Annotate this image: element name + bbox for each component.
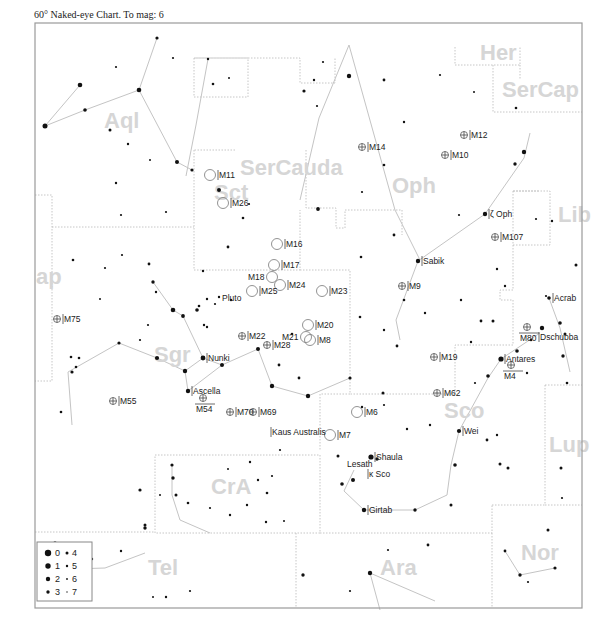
magnitude-dot-icon <box>66 578 68 580</box>
dso-m7[interactable]: M7 <box>325 430 352 441</box>
dso-m75[interactable]: M75 <box>54 314 81 324</box>
dso-m8[interactable]: M8 <box>305 335 332 346</box>
dso-label: M20 <box>317 320 334 330</box>
open-cluster-icon <box>305 335 316 346</box>
star--sco[interactable]: κ Sco <box>368 469 391 479</box>
dso-label: M107 <box>502 232 524 242</box>
star-label: Sabik <box>423 256 445 266</box>
legend-mag: 5 <box>72 561 77 571</box>
dso-label: M4 <box>504 371 516 381</box>
dso-label: M14 <box>369 142 386 152</box>
open-cluster-icon <box>325 430 336 441</box>
dso-label: M22 <box>249 331 266 341</box>
star--oph[interactable]: ζ Oph <box>489 209 512 219</box>
legend-mag: 4 <box>72 548 77 558</box>
magnitude-dot-icon <box>45 550 51 556</box>
star-pluto[interactable]: Pluto <box>218 293 242 303</box>
named-star-labels: Sabikζ OphAcrabDschubbaAntaresNunkiAscel… <box>192 209 579 515</box>
constellation-label: Sco <box>444 398 484 423</box>
star-sabik[interactable]: Sabik <box>422 256 445 266</box>
dso-label: M28 <box>274 340 291 350</box>
dso-m23[interactable]: M23 <box>317 286 348 297</box>
constellation-label: Tel <box>148 555 178 580</box>
star-chart[interactable]: HerSerCapAqlSerCaudaSctOphLibapSgrScoLup… <box>0 0 613 644</box>
dso-m11[interactable]: M11 <box>205 170 236 181</box>
constellation-label: Oph <box>392 173 436 198</box>
dso-m4[interactable]: M4 <box>503 362 523 382</box>
constellation-label: Ara <box>380 555 417 580</box>
dso-label: M16 <box>286 239 303 249</box>
magnitude-dot-icon <box>66 565 68 567</box>
legend-mag: 2 <box>55 574 60 584</box>
legend-mag: 0 <box>55 548 60 558</box>
star-kaus-australis[interactable]: Kaus Australis <box>271 427 326 437</box>
dso-m24[interactable]: M24 <box>275 280 306 291</box>
dso-label: M25 <box>261 286 278 296</box>
dso-label: M6 <box>366 407 378 417</box>
star-label: Lesath <box>347 459 373 469</box>
star-label: Kaus Australis <box>272 427 326 437</box>
dso-m18[interactable]: M18 <box>248 272 278 283</box>
open-cluster-icon <box>272 239 283 250</box>
constellation-label: Her <box>480 40 517 65</box>
magnitude-dot-icon <box>45 563 50 568</box>
dso-m10[interactable]: M10 <box>442 150 469 160</box>
constellation-label: SerCap <box>502 77 579 102</box>
dso-m107[interactable]: M107 <box>492 232 524 242</box>
dso-label: M11 <box>219 170 235 180</box>
dso-m28[interactable]: M28 <box>264 340 291 350</box>
star-dschubba[interactable]: Dschubba <box>539 332 579 342</box>
star-nunki[interactable]: Nunki <box>207 353 230 363</box>
star-antares[interactable]: Antares <box>505 354 535 364</box>
legend-mag: 1 <box>55 561 60 571</box>
dso-label: M12 <box>471 130 488 140</box>
open-cluster-icon <box>247 286 258 297</box>
star-shaula[interactable]: Shaula <box>375 452 403 462</box>
dso-m80[interactable]: M80 <box>519 324 539 344</box>
dso-m16[interactable]: M16 <box>272 239 303 250</box>
dso-m54[interactable]: M54 <box>195 395 215 415</box>
star-lesath[interactable]: Lesath <box>347 459 373 469</box>
dso-m62[interactable]: M62 <box>434 388 461 398</box>
legend-mag: 7 <box>72 587 77 597</box>
dso-m9[interactable]: M9 <box>399 281 422 291</box>
dso-label: M19 <box>441 352 458 362</box>
star-ascella[interactable]: Ascella <box>192 386 221 396</box>
star-girtab[interactable]: Girtab <box>368 505 392 515</box>
constellation-label: Sgr <box>154 342 191 367</box>
dso-m19[interactable]: M19 <box>431 352 458 362</box>
open-cluster-icon <box>352 407 363 418</box>
open-cluster-icon <box>317 286 328 297</box>
dso-label: M7 <box>339 430 351 440</box>
star-label: Nunki <box>208 353 230 363</box>
dso-m12[interactable]: M12 <box>461 130 488 140</box>
dso-m25[interactable]: M25 <box>247 286 278 297</box>
star-wei[interactable]: Wei <box>463 426 479 436</box>
star-label: Dschubba <box>540 332 579 342</box>
constellation-label: Lib <box>558 202 591 227</box>
legend-mag: 3 <box>55 587 60 597</box>
star-acrab[interactable]: Acrab <box>553 293 576 303</box>
dso-label: M75 <box>64 314 81 324</box>
dso-label: M18 <box>248 272 265 282</box>
dso-label: M9 <box>409 281 421 291</box>
dso-label: M8 <box>319 335 331 345</box>
dso-label: M24 <box>289 280 306 290</box>
dso-m69[interactable]: M69 <box>250 407 277 417</box>
dso-label: M54 <box>196 404 213 414</box>
dso-m22[interactable]: M22 <box>239 331 266 341</box>
dso-label: M17 <box>283 260 300 270</box>
open-cluster-icon <box>303 320 314 331</box>
dso-m6[interactable]: M6 <box>352 407 379 418</box>
constellation-label: Lup <box>549 432 589 457</box>
star-label: Shaula <box>376 452 403 462</box>
dso-m17[interactable]: M17 <box>269 260 300 271</box>
dso-m55[interactable]: M55 <box>110 396 137 406</box>
dso-m20[interactable]: M20 <box>303 320 334 331</box>
star-label: ζ Oph <box>490 209 512 219</box>
dso-label: M26 <box>232 198 249 208</box>
star-label: κ Sco <box>369 469 391 479</box>
open-cluster-icon <box>269 260 280 271</box>
dso-m14[interactable]: M14 <box>359 142 386 152</box>
magnitude-dot-icon <box>66 552 69 555</box>
